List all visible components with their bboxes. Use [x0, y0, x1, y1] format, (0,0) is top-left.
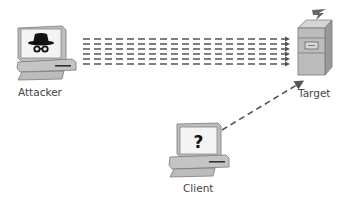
diagram-canvas: ?: [0, 0, 351, 204]
flood-arrowheads: [285, 37, 290, 67]
question-icon: ?: [194, 132, 204, 152]
client-computer[interactable]: ?: [169, 123, 229, 177]
target-label: Target: [298, 87, 330, 99]
attacker-label: Attacker: [18, 86, 62, 98]
lightning-icon: [312, 9, 326, 20]
client-target-connection: [222, 83, 300, 130]
target-server[interactable]: [298, 9, 332, 75]
attacker-computer[interactable]: [17, 26, 76, 80]
client-label: Client: [183, 182, 213, 194]
attack-flood-lines: [83, 39, 286, 64]
